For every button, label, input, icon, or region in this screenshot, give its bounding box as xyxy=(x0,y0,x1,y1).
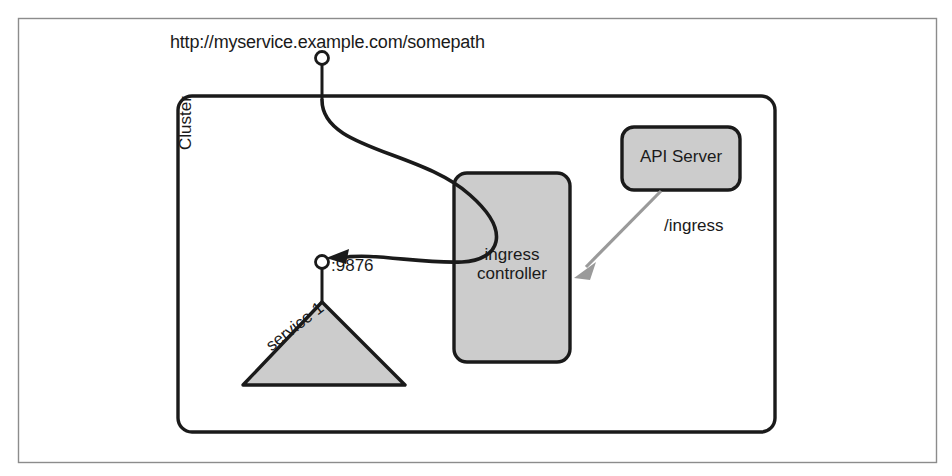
ingress-rule-arrowhead xyxy=(574,262,596,280)
url-endpoint-circle xyxy=(316,52,329,65)
service-port-circle xyxy=(316,256,329,269)
url-label: http://myservice.example.com/somepath xyxy=(170,32,485,52)
diagram-canvas: http://myservice.example.com/somepath Cl… xyxy=(0,0,952,476)
api-server-label: API Server xyxy=(622,147,740,166)
ingress-path-label: /ingress xyxy=(664,216,724,235)
ingress-rule-arrow-line xyxy=(586,191,661,267)
ingress-controller-label: ingress controller xyxy=(454,245,570,283)
diagram-vector-layer xyxy=(0,0,952,476)
service-port-label: :9876 xyxy=(331,256,374,275)
cluster-label: Cluster xyxy=(176,96,195,150)
